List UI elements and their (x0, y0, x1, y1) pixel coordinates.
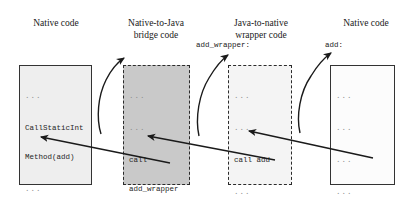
code-box-wrapper: ... ... call add ... ret (228, 65, 292, 185)
code-line: ... (336, 156, 392, 170)
column-heading-native-code-left: Native code (8, 18, 104, 30)
code-box-wrapper-lines: ... ... call add ... ret (234, 74, 289, 205)
code-line: CallStaticInt (25, 124, 89, 135)
code-line: Method(add) (25, 153, 89, 167)
entry-label-add: add: (325, 41, 343, 50)
code-box-native-caller-lines: ... CallStaticInt Method(add) ... (25, 74, 89, 205)
code-line: call add (234, 156, 289, 170)
column-heading-java-to-native-wrapper: Java-to-native wrapper code (209, 18, 313, 41)
call-arrow-wrapper-to-callee (298, 53, 331, 133)
column-heading-native-to-java-bridge: Native-to-Java bridge code (108, 18, 204, 41)
entry-label-add-wrapper: add_wrapper: (196, 41, 250, 50)
code-line: ... (129, 92, 187, 106)
code-line: ... (336, 188, 392, 202)
call-arrow-caller-to-bridge (98, 58, 124, 134)
column-heading-native-code-right: Native code (318, 18, 414, 30)
code-box-native-callee: ... ... ... ... return (330, 65, 395, 185)
code-line: ... (25, 92, 89, 106)
code-box-bridge: ... ... call add_wrapper ... ret (123, 65, 190, 185)
code-line: ... (234, 92, 289, 106)
code-line: ... (25, 185, 89, 199)
code-line: ... (336, 124, 392, 138)
code-line: ... (336, 92, 392, 106)
code-line: ... (234, 188, 289, 202)
code-line: ... (129, 124, 187, 138)
code-box-native-callee-lines: ... ... ... ... return (336, 74, 392, 205)
call-arrow-bridge-to-wrapper (197, 55, 228, 136)
code-line: add_wrapper (129, 185, 187, 199)
code-box-bridge-lines: ... ... call add_wrapper ... ret (129, 74, 187, 205)
code-box-native-caller: ... CallStaticInt Method(add) ... (19, 65, 92, 185)
code-line: ... (234, 124, 289, 138)
code-line: call (129, 156, 187, 167)
diagram-canvas: Native code Native-to-Java bridge code J… (0, 0, 418, 205)
